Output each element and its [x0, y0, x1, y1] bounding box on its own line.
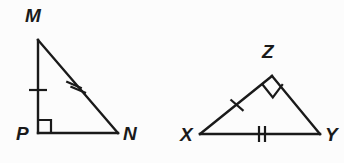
vertex-label-N: N: [123, 124, 137, 143]
vertex-label-P: P: [16, 124, 29, 143]
vertex-label-M: M: [25, 6, 41, 25]
segment-ZY: [272, 76, 320, 134]
triangle-MPN: [29, 40, 118, 133]
vertex-label-Y: Y: [325, 125, 338, 144]
right-angle-marker-P: [38, 120, 51, 133]
vertex-label-X: X: [180, 125, 193, 144]
geometry-canvas: [0, 0, 344, 163]
geometry-figure: M P N Z X Y: [0, 0, 344, 163]
triangle-XZY: [200, 76, 320, 142]
vertex-label-Z: Z: [262, 42, 274, 61]
